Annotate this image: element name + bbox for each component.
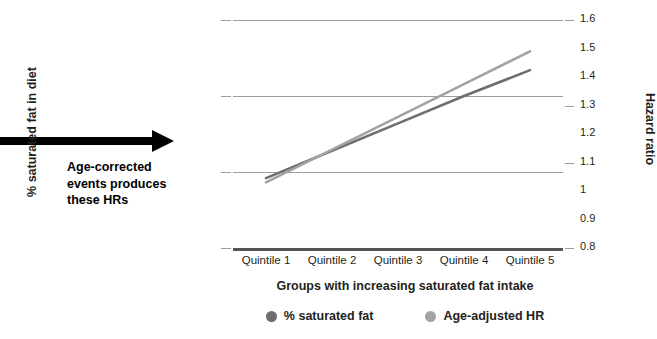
x-axis-line <box>233 248 563 251</box>
y-axis-right-tick-label: 1.1 <box>580 155 620 167</box>
arrow-shaft <box>0 137 158 145</box>
y-axis-right-tick-label: 1 <box>580 183 620 195</box>
legend-label: Age-adjusted HR <box>443 309 544 323</box>
y-axis-right-tick-mark <box>565 106 574 107</box>
annotation-text: Age-corrected events produces these HRs <box>67 159 187 209</box>
y-axis-left-tick-mark <box>221 96 231 97</box>
data-series-layer <box>233 20 563 248</box>
legend-dot-icon <box>266 311 277 322</box>
y-axis-left-title: % saturated fat in diet <box>25 42 39 222</box>
annotation-line-1: Age-corrected <box>67 159 187 176</box>
y-axis-left-tick-mark <box>221 248 231 249</box>
legend-item[interactable]: % saturated fat <box>266 309 374 323</box>
y-axis-right-tick-label: 1.3 <box>580 98 620 110</box>
y-axis-left-tick-mark <box>221 172 231 173</box>
y-axis-right-tick-label: 1.5 <box>580 41 620 53</box>
plot-area: 5%10%15%20% 0.80.911.11.21.31.41.51.6 Qu… <box>233 20 563 248</box>
y-axis-right-tick-label: 0.9 <box>580 212 620 224</box>
annotation-line-3: these HRs <box>67 192 187 209</box>
y-axis-right-tick-mark <box>565 20 574 21</box>
x-axis-title: Groups with increasing saturated fat int… <box>225 279 585 293</box>
x-axis-tick-label: Quintile 5 <box>485 254 575 266</box>
y-axis-right-title: Hazard ratio <box>643 39 657 219</box>
legend-label: % saturated fat <box>284 309 374 323</box>
arrow-head <box>152 130 174 152</box>
chart-legend: % saturated fatAge-adjusted HR <box>225 305 585 327</box>
y-axis-right-tick-mark <box>565 163 574 164</box>
annotation-line-2: events produces <box>67 176 187 193</box>
y-axis-right-tick-label: 1.6 <box>580 12 620 24</box>
legend-item[interactable]: Age-adjusted HR <box>425 309 544 323</box>
y-axis-right-tick-label: 1.4 <box>580 69 620 81</box>
y-axis-right-tick-label: 1.2 <box>580 126 620 138</box>
y-axis-right-tick-mark <box>565 248 574 249</box>
legend-dot-icon <box>425 311 436 322</box>
y-axis-left-tick-mark <box>221 20 231 21</box>
y-axis-right-tick-label: 0.8 <box>580 240 620 252</box>
series-line <box>266 51 530 182</box>
